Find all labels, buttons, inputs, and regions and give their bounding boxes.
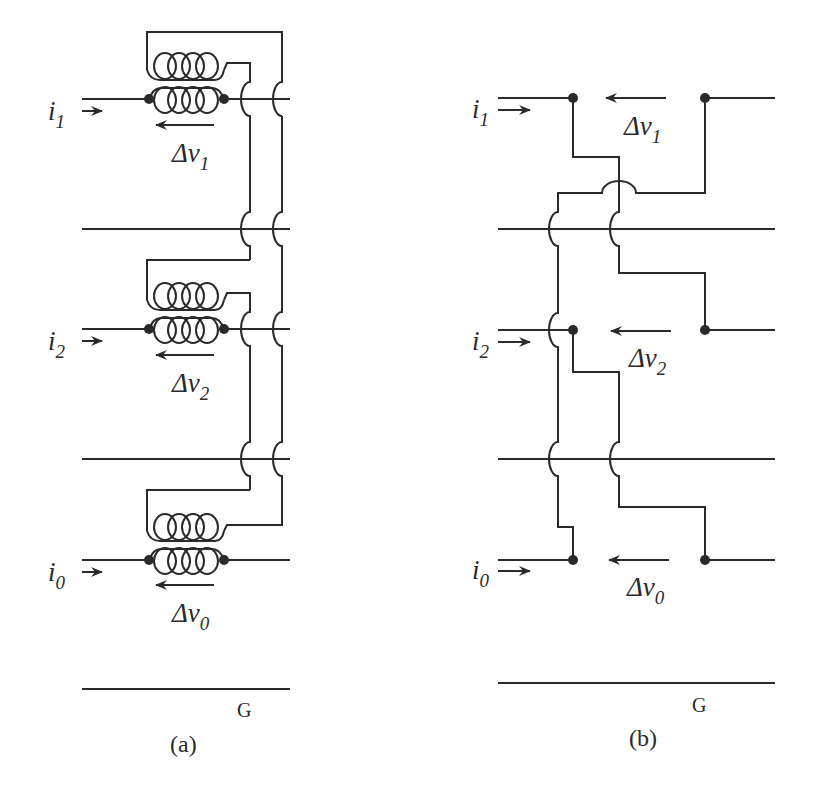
transformer-2 [82, 260, 290, 343]
voltage-label: Δv0 [626, 572, 665, 608]
panel-caption: (b) [629, 725, 657, 751]
transformer-1 [82, 32, 290, 116]
ground-label: G [692, 694, 706, 716]
current-label: i0 [48, 557, 66, 593]
coil-icon [147, 514, 224, 541]
coil-icon [150, 548, 224, 574]
coil-icon [150, 87, 224, 113]
voltage-label: Δv2 [628, 343, 667, 379]
voltage-label: Δv1 [623, 111, 661, 147]
voltage-label: Δv0 [171, 598, 210, 634]
coil-icon [147, 53, 224, 80]
current-label: i2 [48, 326, 66, 362]
voltage-label: Δv1 [171, 138, 209, 174]
panel-caption: (a) [170, 731, 197, 757]
current-label: i0 [472, 555, 490, 591]
current-label: i1 [48, 96, 65, 132]
voltage-label: Δv2 [171, 368, 210, 404]
current-label: i1 [472, 94, 489, 130]
panel-a: i1 Δv1 i2 Δv2 i0 Δv0 G (a) [48, 32, 290, 757]
current-label: i2 [472, 326, 490, 362]
ground-label: G [237, 699, 251, 721]
panel-b: i1 Δv1 i2 Δv2 i0 Δv0 G (b) [472, 93, 775, 751]
transformer-0 [82, 490, 290, 574]
coil-icon [147, 283, 224, 310]
coil-icon [150, 317, 224, 343]
circuit-diagram: i1 Δv1 i2 Δv2 i0 Δv0 G (a) [0, 0, 814, 795]
diagram-canvas: i1 Δv1 i2 Δv2 i0 Δv0 G (a) [0, 0, 814, 795]
